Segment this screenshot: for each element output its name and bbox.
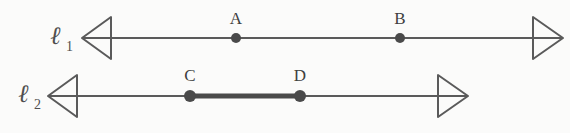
line-l2-label-subscript: 2 [34, 97, 41, 112]
point-b-dot [395, 33, 405, 43]
geometry-figure: ℓ 1 A B ℓ 2 C D [0, 0, 570, 133]
figure-canvas: ℓ 1 A B ℓ 2 C D [0, 0, 570, 133]
point-d-dot [294, 90, 306, 102]
point-a-label: A [230, 9, 243, 28]
point-c-label: C [184, 66, 195, 85]
point-b-label: B [394, 9, 405, 28]
line-l1-label-subscript: 1 [66, 39, 73, 54]
point-d-label: D [294, 66, 306, 85]
line-l2-label: ℓ [18, 80, 29, 107]
point-a-dot [231, 33, 241, 43]
line-l2-group: ℓ 2 C D [18, 66, 468, 117]
line-l1-group: ℓ 1 A B [50, 9, 563, 59]
line-l1-label: ℓ [50, 22, 61, 49]
point-c-dot [184, 90, 196, 102]
